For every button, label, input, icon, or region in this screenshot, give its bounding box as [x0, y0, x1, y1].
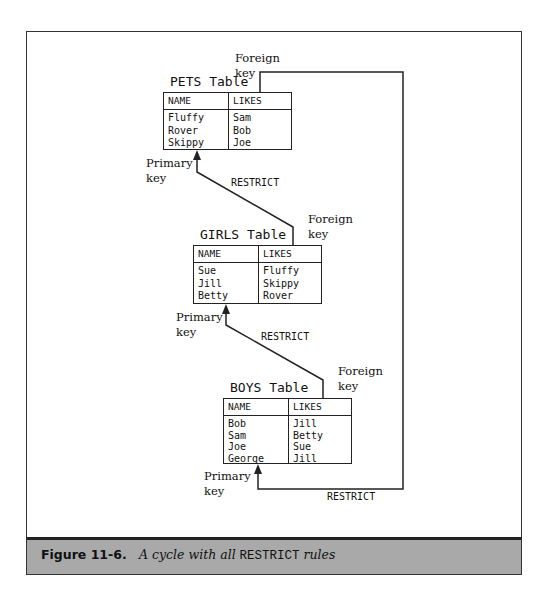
table-cell: Rover — [263, 290, 299, 303]
table-cell: Jill — [293, 453, 323, 465]
foreign-key-label-boys: Foreign key — [338, 364, 383, 394]
table-cell: Sue — [293, 441, 323, 453]
restrict-label-girls: RESTRICT — [261, 331, 309, 342]
restrict-label-boys: RESTRICT — [327, 491, 375, 502]
table-cell: Jill — [293, 418, 323, 430]
figure-caption-bar: Figure 11-6. A cycle with all RESTRICT r… — [26, 537, 522, 575]
primary-key-label-pets: Primary key — [146, 156, 193, 186]
girls-table: NAME LIKES Sue Jill Betty Fluffy Skippy … — [193, 245, 322, 304]
column-header-name: NAME — [224, 399, 289, 415]
table-cell: Sam — [228, 430, 288, 442]
column-header-likes: LIKES — [289, 399, 322, 415]
foreign-key-label-pets: Foreign key — [235, 51, 280, 81]
table-cell: Sue — [198, 265, 258, 278]
table-cell: Fluffy — [168, 112, 228, 125]
arrowhead-girls — [222, 304, 230, 314]
table-cell: Sam — [233, 112, 251, 125]
arrowhead-pets — [193, 150, 201, 160]
table-cell: Joe — [228, 441, 288, 453]
primary-key-label-girls: Primary key — [176, 310, 223, 340]
table-cell: Skippy — [263, 278, 299, 291]
table-cell: Bob — [233, 125, 251, 138]
foreign-key-label-girls: Foreign key — [308, 212, 353, 242]
table-cell: Rover — [168, 125, 228, 138]
column-header-name: NAME — [164, 93, 229, 109]
table-cell: Jill — [198, 278, 258, 291]
pets-table: NAME LIKES Fluffy Rover Skippy Sam Bob J… — [163, 92, 292, 150]
column-header-likes: LIKES — [259, 246, 292, 262]
boys-table: NAME LIKES Bob Sam Joe George Jill Betty… — [223, 398, 352, 464]
figure-number: Figure 11-6. — [41, 547, 127, 562]
table-cell: Skippy — [168, 137, 228, 150]
table-cell: Betty — [198, 290, 258, 303]
table-cell: Joe — [233, 137, 251, 150]
restrict-label-pets: RESTRICT — [231, 177, 279, 188]
column-header-name: NAME — [194, 246, 259, 262]
arrowhead-boys — [254, 464, 262, 474]
table-cell: Bob — [228, 418, 288, 430]
table-cell: George — [228, 453, 288, 465]
table-cell: Betty — [293, 430, 323, 442]
boys-table-title: BOYS Table — [230, 380, 308, 395]
girls-table-title: GIRLS Table — [200, 227, 286, 242]
figure-caption: A cycle with all RESTRICT rules — [139, 547, 335, 563]
primary-key-label-boys: Primary key — [204, 469, 251, 499]
column-header-likes: LIKES — [229, 93, 262, 109]
table-cell: Fluffy — [263, 265, 299, 278]
